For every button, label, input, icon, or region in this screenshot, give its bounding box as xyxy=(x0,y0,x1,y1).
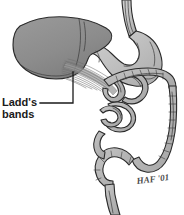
ladds-bands-label-line2: bands xyxy=(2,108,34,120)
anatomy-illustration: Ladd's bands HAF '01 xyxy=(0,0,184,215)
ladds-bands-label-line1: Ladd's xyxy=(2,96,37,108)
illustration-canvas: Ladd's bands HAF '01 xyxy=(0,0,184,215)
ladds-bands-label: Ladd's bands xyxy=(2,96,37,120)
